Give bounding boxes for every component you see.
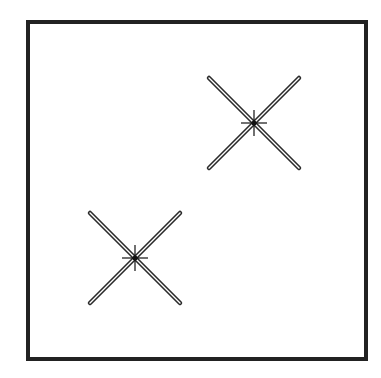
square-frame [28, 22, 366, 359]
lower-left-cross-marker [90, 213, 180, 303]
upper-right-cross-marker [209, 78, 299, 168]
diagram-canvas [0, 0, 381, 378]
cross-markers [90, 78, 299, 303]
